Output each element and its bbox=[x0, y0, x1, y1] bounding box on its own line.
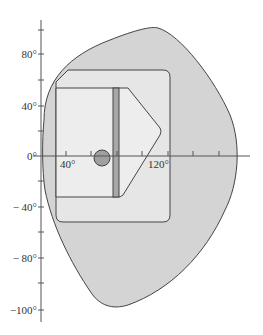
blind-spot bbox=[94, 150, 110, 166]
visual-field-diagram: 80° 40° 0° − 40° − 80° −100° 40° 120° bbox=[0, 0, 263, 335]
y-label-neg40: − 40° bbox=[13, 201, 37, 213]
y-label-0: 0° bbox=[27, 150, 37, 162]
y-label-80: 80° bbox=[22, 48, 37, 60]
x-label-120: 120° bbox=[148, 158, 169, 170]
y-label-neg80: − 80° bbox=[13, 252, 37, 264]
y-label-neg100: −100° bbox=[10, 304, 37, 316]
vertical-bar bbox=[113, 88, 119, 197]
y-label-40: 40° bbox=[22, 100, 37, 112]
x-label-40: 40° bbox=[60, 158, 75, 170]
